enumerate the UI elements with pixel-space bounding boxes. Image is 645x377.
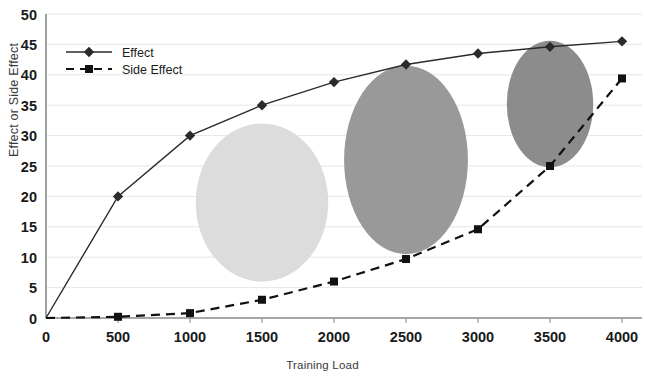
x-tick-label: 2000	[318, 329, 350, 345]
y-tick-label: 45	[21, 37, 37, 53]
y-tick-label: 10	[21, 250, 37, 266]
x-axis-label: Training Load	[0, 355, 645, 373]
x-tick-label: 0	[42, 329, 50, 345]
data-point-side-effect	[330, 278, 338, 286]
data-point-side-effect	[618, 74, 626, 82]
data-point-side-effect	[402, 255, 410, 263]
y-tick-label: 25	[21, 159, 37, 175]
y-tick-label: 0	[29, 311, 37, 327]
data-point-effect	[473, 48, 483, 58]
chart-legend: EffectSide Effect	[66, 46, 183, 77]
y-tick-label: 40	[21, 67, 37, 83]
zone-zone-light	[196, 123, 328, 281]
x-tick-label: 1000	[174, 329, 206, 345]
data-point-side-effect	[186, 309, 194, 317]
chart-container: 05101520253035404550 0500100015002000250…	[0, 0, 645, 377]
data-point-effect	[257, 100, 267, 110]
x-tick-label: 3500	[534, 329, 566, 345]
zone-zone-medium	[344, 66, 468, 254]
x-tick-label: 4000	[606, 329, 638, 345]
x-tick-label: 1500	[246, 329, 278, 345]
legend-marker-side-effect	[85, 65, 93, 73]
x-tick-labels-group: 05001000150020002500300035004000	[42, 329, 638, 345]
y-tick-label: 15	[21, 219, 37, 235]
y-tick-label: 20	[21, 189, 37, 205]
data-point-side-effect	[546, 162, 554, 170]
legend-label-effect: Effect	[122, 46, 154, 60]
data-point-side-effect	[258, 296, 266, 304]
y-tick-label: 50	[21, 7, 37, 23]
data-point-effect	[329, 77, 339, 87]
chart-plot-area: 05101520253035404550 0500100015002000250…	[0, 0, 645, 377]
data-point-side-effect	[114, 313, 122, 321]
y-tick-label: 35	[21, 98, 37, 114]
data-point-side-effect	[474, 225, 482, 233]
x-tick-label: 500	[106, 329, 130, 345]
x-tick-label: 2500	[390, 329, 422, 345]
y-tick-labels-group: 05101520253035404550	[21, 7, 37, 327]
x-axis-label-text: Training Load	[286, 359, 359, 371]
legend-label-side-effect: Side Effect	[122, 63, 183, 77]
data-point-effect	[617, 36, 627, 46]
x-tick-label: 3000	[462, 329, 494, 345]
legend-marker-effect	[84, 47, 94, 57]
annotation-zones-group	[196, 41, 593, 282]
y-tick-label: 5	[29, 280, 37, 296]
zone-zone-dark	[507, 41, 593, 167]
y-tick-label: 30	[21, 128, 37, 144]
